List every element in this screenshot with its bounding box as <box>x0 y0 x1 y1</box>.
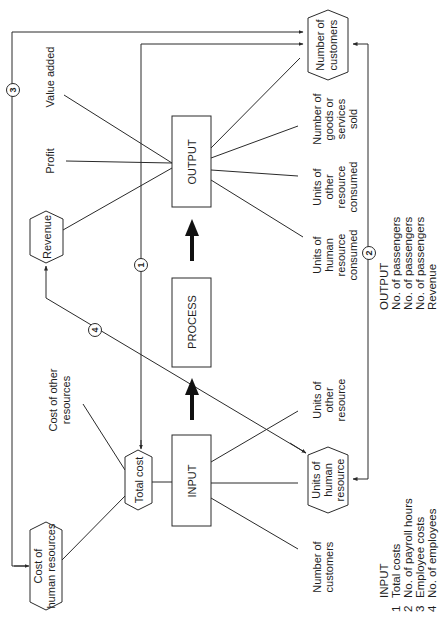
flow-arrow-process-to-output <box>185 219 199 261</box>
label-line-4: consumed <box>347 162 359 213</box>
marker-number: 2 <box>364 250 374 255</box>
label-goods-or-services-sold: Number of goods or services sold <box>311 92 359 144</box>
label-line-1: Value added <box>44 47 56 108</box>
label-line-3: services <box>335 98 347 139</box>
label-line-3: resource <box>335 379 347 422</box>
legend-input: INPUT 1 Total costs 2 No. of payroll hou… <box>378 498 438 612</box>
output-stage-label: OUTPUT <box>186 139 198 185</box>
legend-output-title: OUTPUT <box>378 263 390 310</box>
label-value-added: Value added <box>44 47 56 108</box>
node-label-line-1: Cost of <box>32 548 44 584</box>
node-label: Total cost <box>133 457 145 503</box>
label-line-2: goods or <box>323 97 335 140</box>
label-line-1: Profit <box>44 148 56 174</box>
output-stage-box: OUTPUT <box>172 116 211 207</box>
label-line-2: other <box>323 174 335 199</box>
label-other-resource-consumed: Units of other resource consumed <box>311 162 359 213</box>
legend-output: OUTPUT No. of passengers No. of passenge… <box>378 216 438 310</box>
label-line-2: other <box>323 387 335 412</box>
label-cost-of-other-resources: Cost of other resources <box>47 368 72 431</box>
legend-output-item: Revenue <box>426 264 438 310</box>
node-label-line-1: Units of <box>310 460 322 498</box>
legend-output-item: No. of passengers <box>414 216 426 310</box>
label-line-3: resource <box>335 166 347 209</box>
label-line-1: Units of <box>311 235 323 273</box>
marker-number: 4 <box>90 327 100 332</box>
legend-output-item: No. of passengers <box>402 216 414 310</box>
legend-input-title: INPUT <box>378 564 390 599</box>
process-stage-label: PROCESS <box>186 295 198 349</box>
legend-input-num: 2 <box>402 606 414 612</box>
units-of-human-resource-node: Units of human resource <box>308 447 348 513</box>
legend-input-num: 3 <box>414 606 426 612</box>
ratio-marker-1: 1 <box>135 259 148 272</box>
node-label: Revenue <box>41 215 53 259</box>
legend-input-item: No. of payroll hours <box>402 498 414 598</box>
ratio-marker-2: 2 <box>363 247 376 260</box>
cost-of-human-resources-node: Cost of human resources <box>30 522 62 610</box>
label-line-1: Units of <box>311 380 323 418</box>
label-profit: Profit <box>44 148 56 174</box>
label-line-2: human <box>323 238 335 272</box>
label-line-2: customers <box>323 541 335 592</box>
marker-number: 3 <box>8 87 18 92</box>
total-cost-node: Total cost <box>125 450 152 510</box>
legend-input-num: 4 <box>426 605 438 612</box>
ratio-marker-3: 3 <box>7 84 20 97</box>
node-label-line-2: human <box>322 463 334 497</box>
label-line-3: resource <box>335 234 347 277</box>
label-human-resource-consumed: Units of human resource consumed <box>311 230 359 281</box>
node-label-line-1: Number of <box>314 18 326 70</box>
legend-input-num: 1 <box>390 606 402 612</box>
input-stage-box: INPUT <box>172 435 211 526</box>
revenue-node: Revenue <box>30 211 63 263</box>
ratio-1-connector <box>141 44 303 449</box>
flow-arrow-input-to-process <box>185 378 199 420</box>
legend-input-item: Employee costs <box>414 517 426 598</box>
label-line-4: sold <box>347 109 359 129</box>
input-stage-label: INPUT <box>186 464 198 497</box>
label-line-1: Number of <box>311 540 323 592</box>
node-label-line-3: resource <box>334 459 346 502</box>
node-label-line-2: human resources <box>45 523 57 608</box>
label-line-2: resources <box>60 375 72 424</box>
ratio-marker-4: 4 <box>89 324 102 337</box>
node-label-line-2: customers <box>327 19 339 70</box>
legend-input-item: No. of employees <box>426 508 438 598</box>
label-units-of-other-resource: Units of other resource <box>311 379 347 422</box>
process-stage-box: PROCESS <box>172 278 211 367</box>
legend-output-item: No. of passengers <box>390 216 402 310</box>
label-line-4: consumed <box>347 230 359 281</box>
label-line-1: Number of <box>311 92 323 144</box>
marker-number: 1 <box>136 262 146 267</box>
legend-input-item: Total costs <box>390 543 402 598</box>
label-number-of-customers-input: Number of customers <box>311 540 335 592</box>
diagram-canvas: OUTPUT PROCESS INPUT Number of customers… <box>0 0 443 623</box>
label-line-1: Cost of other <box>47 368 59 431</box>
number-of-customers-node: Number of customers <box>308 10 348 80</box>
label-line-1: Units of <box>311 167 323 205</box>
ratio-3-connector <box>12 32 303 566</box>
